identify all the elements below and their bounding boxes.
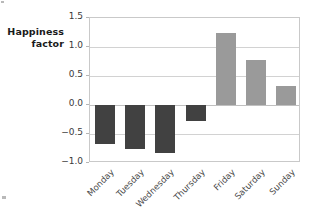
y-tick-label-2: 0.5 <box>37 69 83 79</box>
plot-area <box>89 17 300 162</box>
y-tick-mark-4 <box>86 133 89 134</box>
bar-tuesday <box>125 105 145 149</box>
y-tick-label-3: 0.0 <box>37 98 83 108</box>
y-tick-mark-5 <box>86 162 89 163</box>
x-tick-label-monday: Monday <box>85 167 116 198</box>
y-tick-mark-2 <box>86 75 89 76</box>
y-tick-label-5: −1.0 <box>37 156 83 166</box>
bar-saturday <box>246 60 266 105</box>
x-tick-label-friday: Friday <box>211 167 236 192</box>
gridline-1 <box>90 47 299 48</box>
x-tick-label-thursday: Thursday <box>171 167 206 202</box>
y-tick-mark-0 <box>86 17 89 18</box>
y-tick-mark-3 <box>86 104 89 105</box>
scan-speck-top-left <box>1 1 4 3</box>
y-tick-mark-1 <box>86 46 89 47</box>
bar-monday <box>95 105 115 144</box>
bar-wednesday <box>155 105 175 153</box>
bar-friday <box>216 33 236 105</box>
bar-chart-figure: Happiness factor 1.51.00.50.0−0.5−1.0 Mo… <box>0 0 313 209</box>
scan-speck-bottom-left <box>2 196 6 199</box>
gridline--0-5 <box>90 134 299 135</box>
gridline-0-5 <box>90 76 299 77</box>
bar-sunday <box>276 86 296 105</box>
y-tick-label-1: 1.0 <box>37 40 83 50</box>
bar-thursday <box>186 105 206 121</box>
x-tick-label-saturday: Saturday <box>232 167 266 201</box>
y-axis-title-line-1: Happiness <box>2 26 64 38</box>
y-tick-label-0: 1.5 <box>37 11 83 21</box>
x-tick-label-sunday: Sunday <box>267 167 297 197</box>
y-tick-label-4: −0.5 <box>37 127 83 137</box>
